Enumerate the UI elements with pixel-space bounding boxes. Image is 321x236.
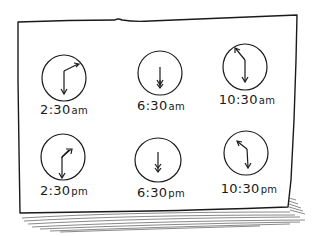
time-text: 6:30	[137, 98, 167, 113]
time-text: 6:30	[137, 185, 167, 200]
clock-label-5: 6:30pm	[137, 185, 185, 200]
clock-label-6: 10:30pm	[221, 181, 278, 196]
clock-face-5	[135, 138, 181, 182]
clock-face-2	[138, 51, 182, 95]
clock-label-3: 10:30am	[219, 92, 275, 107]
meridiem-text: am	[168, 101, 184, 112]
meridiem-text: am	[259, 95, 275, 106]
clock-label-1: 2:30am	[40, 102, 88, 117]
meridiem-text: am	[71, 105, 87, 116]
time-text: 10:30	[221, 181, 260, 196]
chalkboard-drawing	[0, 0, 321, 236]
clock-face-6	[224, 131, 268, 175]
clock-face-3	[223, 44, 267, 90]
clock-face-1	[42, 55, 86, 101]
clock-face-4	[41, 134, 85, 180]
clock-label-2: 6:30am	[137, 98, 185, 113]
board-shadow	[22, 198, 305, 232]
meridiem-text: pm	[71, 186, 88, 197]
meridiem-text: pm	[261, 184, 278, 195]
time-text: 2:30	[40, 102, 70, 117]
time-text: 10:30	[219, 92, 258, 107]
meridiem-text: pm	[168, 188, 185, 199]
clock-label-4: 2:30pm	[40, 183, 88, 198]
time-text: 2:30	[40, 183, 70, 198]
